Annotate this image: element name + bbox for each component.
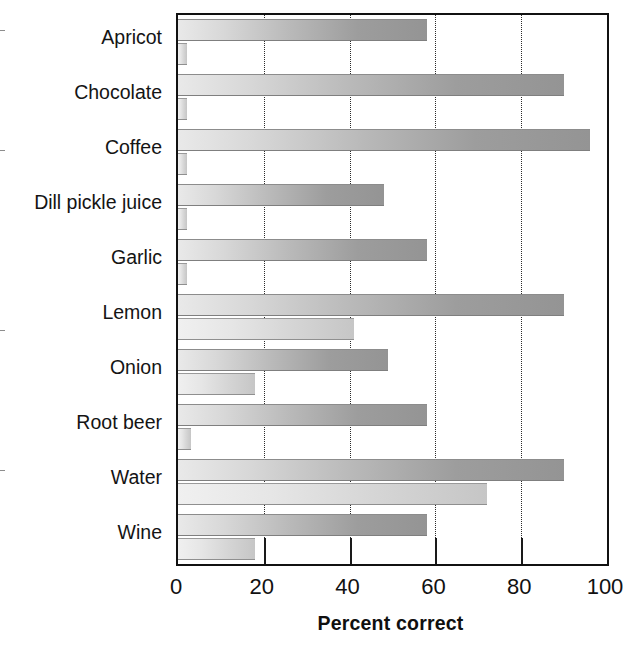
xtick-label-0: 0 (170, 576, 182, 598)
category-label-apricot: Apricot (101, 29, 162, 49)
xtick-label-60: 60 (421, 576, 445, 598)
category-axis-labels: ApricotChocolateCoffeeDill pickle juiceG… (0, 13, 168, 562)
bar-dill-pickle-juice-lower-bar (178, 208, 187, 230)
bar-coffee-lower-bar (178, 153, 187, 175)
category-label-wine: Wine (118, 523, 162, 543)
gridline-80 (521, 15, 522, 564)
bar-wine-lower-bar (178, 538, 255, 560)
xtick-label-20: 20 (250, 576, 274, 598)
xtick-mark-20 (264, 538, 266, 564)
bar-coffee-upper-bar (178, 129, 590, 151)
xtick-mark-80 (521, 538, 523, 564)
xtick-label-80: 80 (507, 576, 531, 598)
bar-wine-upper-bar (178, 514, 427, 536)
gridline-40 (350, 15, 351, 564)
bar-dill-pickle-juice-upper-bar (178, 184, 384, 206)
bar-water-upper-bar (178, 459, 564, 481)
bar-onion-upper-bar (178, 349, 388, 371)
category-label-coffee: Coffee (105, 139, 162, 159)
category-label-root-beer: Root beer (76, 413, 162, 433)
bar-root-beer-upper-bar (178, 404, 427, 426)
bar-chocolate-lower-bar (178, 98, 187, 120)
bar-apricot-upper-bar (178, 19, 427, 41)
bar-onion-lower-bar (178, 373, 255, 395)
plot-area (176, 13, 609, 566)
bar-chocolate-upper-bar (178, 74, 564, 96)
gridline-60 (435, 15, 436, 564)
xtick-label-40: 40 (335, 576, 359, 598)
plot-inner (178, 15, 607, 564)
bar-apricot-lower-bar (178, 43, 187, 65)
x-axis-title: Percent correct (176, 612, 605, 635)
bar-lemon-lower-bar (178, 318, 354, 340)
category-label-dill-pickle-juice: Dill pickle juice (34, 193, 162, 213)
xtick-mark-40 (350, 538, 352, 564)
gridline-20 (264, 15, 265, 564)
category-label-lemon: Lemon (102, 303, 162, 323)
bar-chart-figure: ApricotChocolateCoffeeDill pickle juiceG… (0, 0, 641, 647)
bar-lemon-upper-bar (178, 294, 564, 316)
category-label-garlic: Garlic (111, 248, 162, 268)
category-label-chocolate: Chocolate (74, 84, 162, 104)
xtick-label-100: 100 (587, 576, 624, 598)
bar-water-lower-bar (178, 483, 487, 505)
category-label-water: Water (111, 468, 162, 488)
bar-root-beer-lower-bar (178, 428, 191, 450)
category-label-onion: Onion (110, 358, 162, 378)
bar-garlic-lower-bar (178, 263, 187, 285)
xtick-mark-60 (435, 538, 437, 564)
bar-garlic-upper-bar (178, 239, 427, 261)
